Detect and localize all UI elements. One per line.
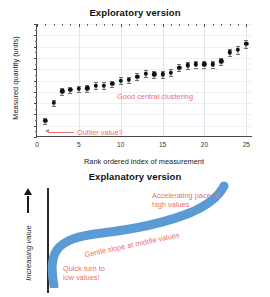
data-point-marker [93,83,97,87]
gridline-horizontal [37,126,252,127]
outlier-arrow-head [45,129,49,133]
x-tick-mark-minor [62,24,63,26]
x-tick-label: 15 [159,141,166,148]
x-tick-mark-minor [129,24,130,26]
annotation-quick-turn-line1: Quick turn to [63,264,105,273]
error-bar-cap [177,71,181,72]
annotation-good-central-clustering: Good central clustering [117,92,193,101]
x-tick-mark-minor [96,24,97,26]
exploratory-panel: Exploratory version 02468101214161820 05… [0,0,270,172]
x-tick-mark-minor [196,24,197,26]
x-tick-mark [204,24,205,27]
x-tick-mark [246,24,247,27]
error-bar-cap [68,93,72,94]
x-tick-mark-minor [70,24,71,26]
data-point-marker [160,72,164,76]
data-point-marker [219,59,223,63]
data-point-marker [119,78,123,82]
explanatory-y-axis-label: Increasing value [24,225,33,280]
annotation-accelerating-pace: Accelerating pace at high values [152,191,219,210]
annotation-accelerating-pace-line1: Accelerating pace at [152,191,219,200]
gridline-vertical [204,24,205,136]
exploratory-panel-title: Exploratory version [0,7,270,18]
x-tick-label: 25 [243,141,250,148]
data-point-marker [236,48,240,52]
x-tick-mark-minor [45,24,46,26]
y-tick-mark-minor [35,86,37,87]
x-tick-mark-minor [154,24,155,26]
y-axis-label: Measured quantity (units) [11,18,20,138]
gridline-horizontal [37,35,252,36]
y-tick-mark [34,103,37,104]
error-bar-cap [135,80,139,81]
annotation-outlier-value: Outlier value? [77,128,123,137]
x-tick-mark [37,24,38,27]
x-tick-mark-minor [179,24,180,26]
x-axis-label: Rank ordered index of measurement [36,157,252,166]
annotation-accelerating-pace-line2: high values [152,200,219,209]
x-tick-label: 20 [201,141,208,148]
data-point-marker [169,70,173,74]
x-tick-mark [79,24,80,27]
error-bar-cap [202,68,206,69]
x-tick-mark-minor [104,24,105,26]
gridline-vertical [79,24,80,136]
error-bar-cap [102,89,106,90]
error-bar-cap [52,106,56,107]
data-point-marker [244,42,248,46]
error-bar-cap [211,68,215,69]
y-tick-mark-minor [35,52,37,53]
error-bar-cap [60,95,64,96]
error-bar-cap [169,76,173,77]
y-tick-mark [34,69,37,70]
gridline-horizontal [37,24,252,25]
explanatory-panel: Explanatory version Increasing value Acc… [0,166,270,297]
y-tick-mark-minor [35,120,37,121]
data-point-marker [152,72,156,76]
y-tick-mark [34,58,37,59]
x-tick-mark-minor [238,24,239,26]
error-bar-cap [152,78,156,79]
error-bar-cap [144,77,148,78]
data-point-marker [185,63,189,67]
y-tick-mark [34,81,37,82]
x-tick-label: 0 [35,141,39,148]
error-bar-cap [127,83,131,84]
y-tick-mark-minor [35,97,37,98]
data-point-marker [194,62,198,66]
x-tick-mark-minor [221,24,222,26]
gridline-horizontal [37,114,252,115]
x-tick-mark [121,24,122,27]
error-bar-cap [94,89,98,90]
data-point-marker [43,118,47,122]
y-tick-mark [34,92,37,93]
x-tick-mark-minor [230,24,231,26]
data-point-marker [202,62,206,66]
data-point-marker [144,72,148,76]
y-tick-mark-minor [35,131,37,132]
error-bar-cap [236,54,240,55]
error-bar-cap [219,65,223,66]
x-tick-mark-minor [137,24,138,26]
annotation-quick-turn-line2: low values! [63,273,105,282]
y-tick-mark [34,35,37,36]
x-tick-mark-minor [188,24,189,26]
data-point-marker [85,86,89,90]
x-tick-mark-minor [112,24,113,26]
outlier-arrow-line [49,132,74,133]
error-bar-cap [194,68,198,69]
y-tick-mark-minor [35,41,37,42]
exploratory-plot-area: 02468101214161820 0510152025 Measured qu… [36,24,252,137]
x-tick-mark-minor [54,24,55,26]
x-tick-label: 5 [77,141,81,148]
y-tick-mark-minor [35,30,37,31]
error-bar-cap [228,56,232,57]
y-tick-mark-minor [35,64,37,65]
y-tick-mark [34,126,37,127]
x-tick-mark-minor [213,24,214,26]
y-tick-mark-minor [35,109,37,110]
data-point-marker [227,50,231,54]
y-tick-mark [34,137,37,138]
data-point-marker [102,83,106,87]
data-point-marker [52,101,56,105]
